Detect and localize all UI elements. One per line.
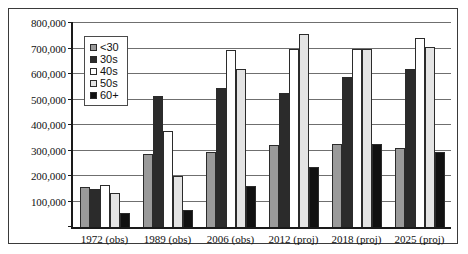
legend-item[interactable]: 40s [90,65,119,77]
bar-group [262,23,325,227]
y-axis-tick-label: 100,000 [31,196,66,208]
x-axis-tick-label: 2006 (obs) [207,233,254,245]
legend-swatch-icon [90,56,97,63]
legend-item-label: 40s [100,66,118,77]
bar[interactable] [100,185,110,227]
bar[interactable] [372,144,382,227]
legend-item[interactable]: 30s [90,53,119,65]
bar[interactable] [279,93,289,227]
bar[interactable] [362,49,372,228]
bar-group [199,23,262,227]
bars-layer [73,23,451,227]
bar[interactable] [352,49,362,228]
x-axis-tick-label: 2012 (proj) [269,233,319,245]
bar-group [388,23,451,227]
y-axis-tick-label: 200,000 [31,170,66,182]
bar[interactable] [110,193,120,227]
legend-item[interactable]: 60+ [90,89,119,101]
x-axis-tick-label: 2025 (proj) [395,233,445,245]
bar[interactable] [299,34,309,227]
y-axis-tick-label: 500,000 [31,94,66,106]
bar[interactable] [415,38,425,227]
x-axis-tick-label: 1989 (obs) [144,233,191,245]
bar[interactable] [90,189,100,227]
bar[interactable] [226,50,236,227]
bar[interactable] [309,167,319,227]
bar[interactable] [435,152,445,227]
y-axis-tick-label: 700,000 [31,43,66,55]
bar[interactable] [246,186,256,227]
y-axis-tick-label: 300,000 [31,145,66,157]
bar[interactable] [143,154,153,227]
legend-swatch-icon [90,80,97,87]
legend-swatch-icon [90,68,97,75]
bar[interactable] [80,187,90,227]
bar[interactable] [120,213,130,227]
bar-group [325,23,388,227]
bar[interactable] [236,69,246,227]
bar[interactable] [289,49,299,228]
bar[interactable] [216,88,226,227]
x-axis-tick-label: 1972 (obs) [81,233,128,245]
legend-swatch-icon [90,44,97,51]
plot-area: 100,000200,000300,000400,000500,000600,0… [71,23,451,229]
legend-item[interactable]: <30 [90,41,119,53]
chart-legend: <3030s40s50s60+ [84,36,128,106]
bar[interactable] [269,145,279,227]
bar[interactable] [425,47,435,227]
legend-item-label: 60+ [100,90,119,101]
y-axis-tick-label: 400,000 [31,119,66,131]
bar[interactable] [173,176,183,227]
y-axis-tick-label: 600,000 [31,68,66,80]
bar[interactable] [332,144,342,227]
chart-frame: 100,000200,000300,000400,000500,000600,0… [8,8,458,244]
bar[interactable] [163,131,173,227]
legend-item-label: 50s [100,78,118,89]
bar[interactable] [206,152,216,227]
legend-swatch-icon [90,92,97,99]
bar[interactable] [405,69,415,227]
y-axis-tick-label: 800,000 [31,17,66,29]
bar-group [136,23,199,227]
bar[interactable] [183,210,193,227]
x-axis-tick-label: 2018 (proj) [332,233,382,245]
legend-item-label: 30s [100,54,118,65]
legend-item-label: <30 [100,42,119,53]
bar[interactable] [342,77,352,227]
bar[interactable] [153,96,163,227]
bar[interactable] [395,148,405,227]
legend-item[interactable]: 50s [90,77,119,89]
